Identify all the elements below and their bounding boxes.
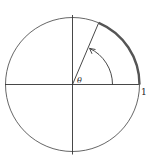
unit-circle-diagram: θ 1 — [0, 0, 151, 164]
angle-arc — [90, 48, 113, 84]
theta-label: θ — [77, 76, 82, 85]
radius-one-label: 1 — [141, 87, 147, 97]
highlighted-arc — [99, 23, 140, 85]
